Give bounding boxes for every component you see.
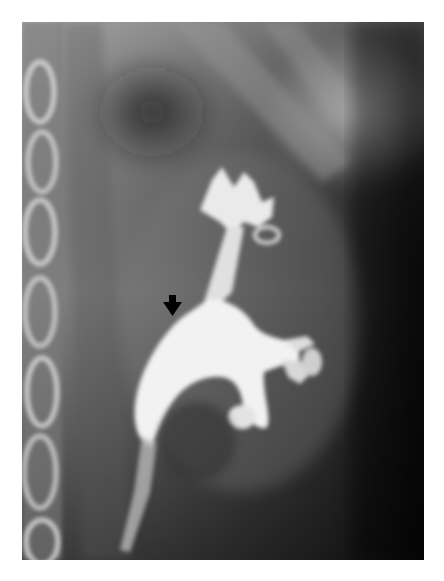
xray-figure	[22, 22, 424, 560]
spine	[22, 22, 62, 560]
xray-image	[22, 22, 424, 560]
